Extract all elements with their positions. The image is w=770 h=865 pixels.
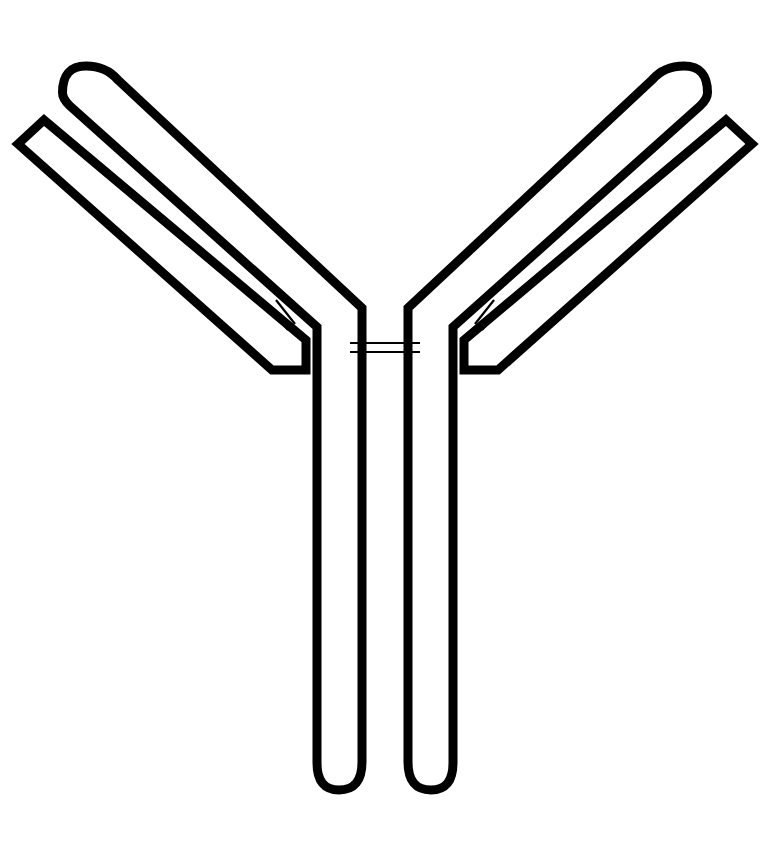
diagram-background [0,0,770,865]
antibody-diagram [0,0,770,865]
antibody-figure-root [0,0,770,865]
